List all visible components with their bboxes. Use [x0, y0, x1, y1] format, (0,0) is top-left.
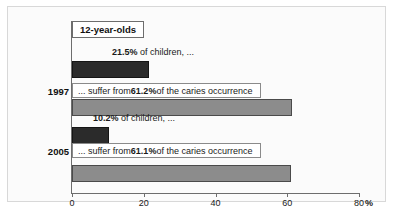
category-label-1997: 1997: [48, 86, 69, 97]
bar-1997-children: [72, 61, 149, 78]
legend-label: 12-year-olds: [80, 24, 136, 35]
x-tick-0: [72, 193, 73, 197]
annotation-1997-children: 21.5% of children, ...: [112, 46, 194, 58]
x-tick-60: [287, 193, 288, 197]
category-label-2005: 2005: [48, 146, 69, 157]
chart-plot-area: 020406080 % 12-year-olds 1997 2005 21.5%…: [8, 7, 387, 203]
x-tick-40: [216, 193, 217, 197]
x-tick-label-60: 60: [282, 198, 292, 208]
annotation-2005-children: 10.2% of children, ...: [93, 112, 175, 124]
x-tick-20: [144, 193, 145, 197]
annotation-2005-caries: ... suffer from 61.1% of the caries occu…: [72, 143, 261, 158]
x-axis-unit-label: %: [365, 198, 373, 208]
x-tick-label-20: 20: [139, 198, 149, 208]
bar-2005-caries: [72, 165, 291, 182]
x-tick-80: [359, 193, 360, 197]
x-tick-label-0: 0: [69, 198, 74, 208]
bar-2005-children: [72, 127, 109, 144]
x-tick-label-80: 80: [354, 198, 364, 208]
annotation-1997-caries: ... suffer from 61.2% of the caries occu…: [72, 83, 261, 98]
legend-box: 12-year-olds: [72, 21, 144, 38]
chart-frame: 020406080 % 12-year-olds 1997 2005 21.5%…: [7, 6, 386, 202]
x-tick-label-40: 40: [210, 198, 220, 208]
